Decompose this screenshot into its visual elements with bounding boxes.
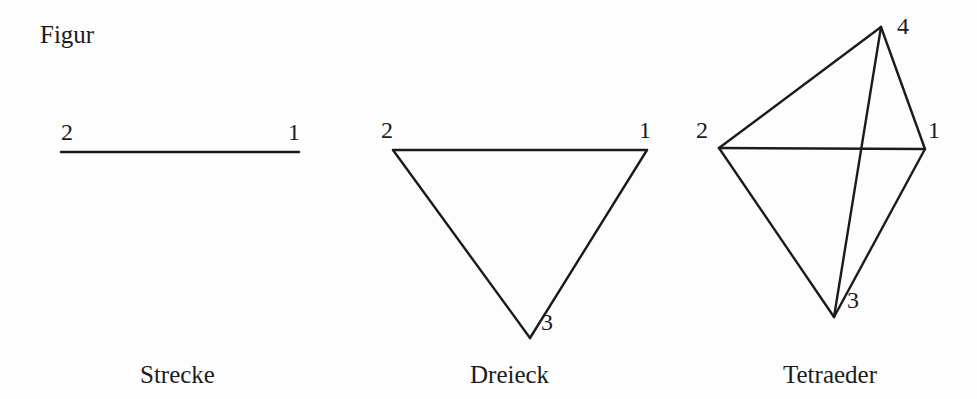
vertex-label-dreieck-1: 1 [639,118,651,142]
caption-tetraeder: Tetraeder [783,362,877,387]
edge-tetraeder-2-3 [719,148,834,317]
vertex-label-tetraeder-1: 1 [928,118,940,142]
figure-tetraeder-edges [719,27,925,317]
edge-dreieck-2-3 [393,150,530,338]
edge-tetraeder-2-1 [719,148,925,149]
vertex-label-dreieck-3: 3 [541,310,553,334]
vertex-label-strecke-2: 2 [61,120,73,144]
vertex-label-tetraeder-3: 3 [847,288,859,312]
caption-strecke: Strecke [140,362,215,387]
edge-tetraeder-2-4 [719,27,881,148]
edge-tetraeder-4-1 [881,27,925,149]
caption-dreieck: Dreieck [470,362,549,387]
vertex-label-tetraeder-4: 4 [897,14,909,38]
figure-dreieck-edges [393,150,647,338]
figure-page: Figur 121231234 StreckeDreieckTetraeder [0,0,977,399]
figure-line-layer [0,0,977,399]
vertex-label-dreieck-2: 2 [381,118,393,142]
vertex-label-tetraeder-2: 2 [696,118,708,142]
vertex-label-strecke-1: 1 [288,120,300,144]
